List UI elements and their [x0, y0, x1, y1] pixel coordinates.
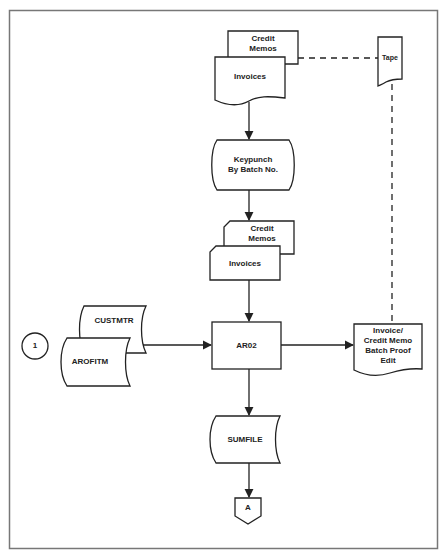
credit-memos-document-label: Credit Memos: [228, 31, 298, 57]
sumfile-label: SUMFILE: [212, 416, 278, 463]
credit-memos-card-label: Credit Memos: [230, 222, 294, 246]
keypunch-label: Keypunch By Batch No.: [211, 145, 295, 185]
connector-a-label: A: [235, 500, 261, 516]
ar02-label: AR02: [212, 322, 281, 369]
tape-label: Tape: [378, 48, 402, 68]
invoices-card-label: Invoices: [210, 252, 280, 276]
proof-edit-label: Invoice/ Credit Memo Batch Proof Edit: [354, 324, 422, 368]
connector-1-label: 1: [22, 336, 48, 356]
custmtr-label: CUSTMTR: [84, 310, 144, 332]
invoices-document-label: Invoices: [215, 62, 285, 92]
arofitm-label: AROFITM: [60, 350, 120, 374]
